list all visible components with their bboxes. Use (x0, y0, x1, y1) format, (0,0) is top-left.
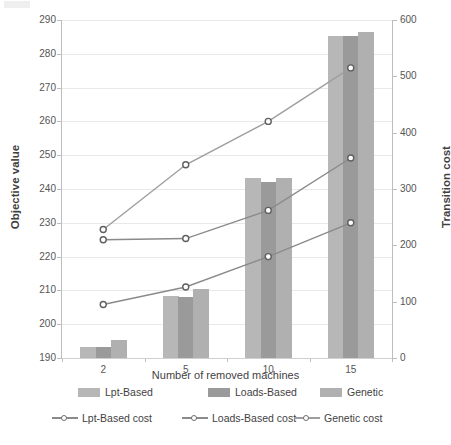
y-axis-left-tick-label: 270 (26, 82, 56, 93)
legend-label: Loads-Based (235, 386, 297, 398)
y-axis-left-tick-label: 280 (26, 48, 56, 59)
y-axis-right-tick-label: 300 (400, 183, 430, 194)
x-axis-title: Number of removed machines (0, 369, 451, 381)
legend-item-line[interactable]: Genetic cost (294, 412, 382, 424)
legend-item-line[interactable]: Lpt-Based cost (52, 412, 152, 424)
y-axis-left-tick-label: 190 (26, 352, 56, 363)
y-axis-left-tick-label: 240 (26, 183, 56, 194)
x-axis-tick-label: 15 (331, 364, 371, 375)
y-axis-right-tickmark (393, 302, 397, 303)
y-axis-right-tick-label: 200 (400, 239, 430, 250)
y-axis-right-tick-label: 0 (400, 352, 430, 363)
data-point-marker (100, 301, 106, 307)
y-axis-left-tick-label: 260 (26, 115, 56, 126)
data-point-marker (183, 284, 189, 290)
data-point-marker (265, 207, 271, 213)
y-axis-right-tickmark (393, 189, 397, 190)
y-axis-right-tickmark (393, 358, 397, 359)
y-axis-left-title: Objective value (9, 141, 21, 233)
chart-container: Objective value Transition cost Number o… (0, 0, 451, 445)
line-path (103, 223, 351, 305)
legend-swatch-icon (320, 388, 342, 397)
scan-artifact (4, 1, 30, 8)
data-point-marker (183, 162, 189, 168)
y-axis-right-tickmark (393, 76, 397, 77)
y-axis-left-tick-label: 250 (26, 149, 56, 160)
y-axis-right-tickmark (393, 20, 397, 21)
legend-item-bar[interactable]: Genetic (320, 386, 383, 398)
y-axis-right-tick-label: 400 (400, 127, 430, 138)
data-point-marker (348, 220, 354, 226)
data-point-marker (100, 227, 106, 233)
legend-item-bar[interactable]: Lpt-Based (78, 386, 153, 398)
x-axis-tick-label: 2 (83, 364, 123, 375)
y-axis-left-line (61, 20, 62, 359)
data-point-marker (348, 155, 354, 161)
y-axis-left-tick-label: 210 (26, 284, 56, 295)
data-point-marker (100, 237, 106, 243)
chart-legend: Lpt-BasedLoads-BasedGenetic Lpt-Based co… (0, 386, 451, 442)
data-point-marker (265, 254, 271, 260)
line-path (103, 68, 351, 230)
legend-row-lines: Lpt-Based costLoads-Based costGenetic co… (0, 412, 451, 432)
y-axis-left-tick-label: 230 (26, 217, 56, 228)
legend-label: Lpt-Based cost (82, 412, 152, 424)
data-point-marker (265, 118, 271, 124)
legend-row-bars: Lpt-BasedLoads-BasedGenetic (0, 386, 451, 406)
legend-line-marker-icon (182, 413, 208, 423)
plot-area (62, 20, 392, 358)
y-axis-left-tick-label: 220 (26, 251, 56, 262)
legend-swatch-icon (78, 388, 100, 397)
legend-label: Genetic (347, 386, 383, 398)
legend-label: Genetic cost (324, 412, 382, 424)
y-axis-right-tickmark (393, 133, 397, 134)
y-axis-left-tick-label: 290 (26, 14, 56, 25)
y-axis-left-tick-label: 200 (26, 318, 56, 329)
data-point-marker (183, 236, 189, 242)
legend-swatch-icon (208, 388, 230, 397)
legend-item-line[interactable]: Loads-Based cost (182, 412, 296, 424)
line-path (103, 158, 351, 240)
y-axis-right-line (392, 20, 393, 359)
data-point-marker (348, 65, 354, 71)
gridline (62, 358, 392, 359)
y-axis-right-tick-label: 500 (400, 70, 430, 81)
x-axis-tick-label: 10 (248, 364, 288, 375)
legend-line-marker-icon (294, 413, 320, 423)
legend-label: Loads-Based cost (212, 412, 296, 424)
line-series-group (62, 20, 392, 358)
x-axis-tick-label: 5 (166, 364, 206, 375)
y-axis-right-tickmark (393, 245, 397, 246)
legend-label: Lpt-Based (105, 386, 153, 398)
legend-line-marker-icon (52, 413, 78, 423)
y-axis-right-title: Transition cost (440, 139, 451, 235)
y-axis-right-tick-label: 600 (400, 14, 430, 25)
y-axis-right-tick-label: 100 (400, 296, 430, 307)
legend-item-bar[interactable]: Loads-Based (208, 386, 297, 398)
